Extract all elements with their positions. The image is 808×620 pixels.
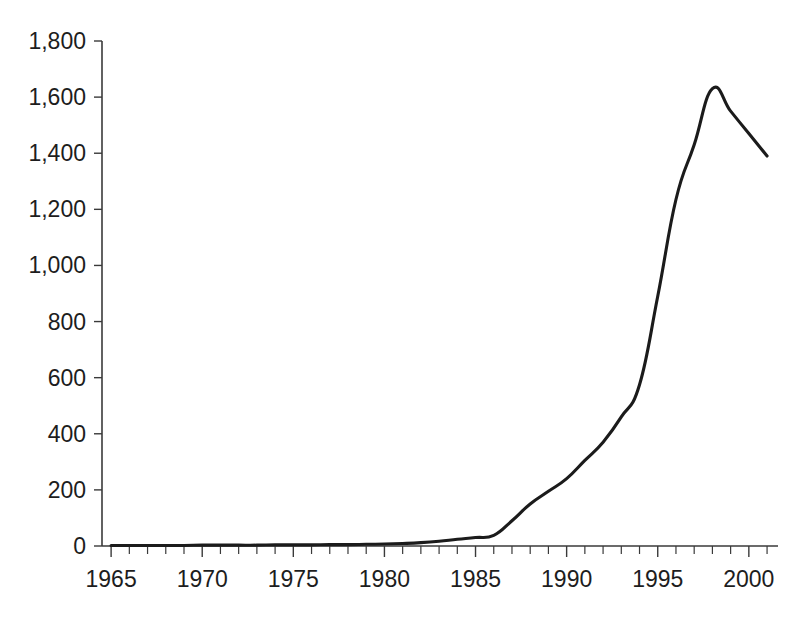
x-tick-label: 1965	[86, 566, 137, 592]
x-tick-label: 1980	[359, 566, 410, 592]
line-chart: 1,8001,6001,4001,2001,0008006004002000 1…	[0, 0, 808, 620]
y-axis-tick-marks	[94, 41, 102, 546]
chart-container: 1,8001,6001,4001,2001,0008006004002000 1…	[0, 0, 808, 620]
y-tick-label: 1,600	[28, 84, 86, 110]
y-tick-label: 600	[48, 365, 86, 391]
x-tick-label: 1970	[177, 566, 228, 592]
y-axis-tick-labels: 1,8001,6001,4001,2001,0008006004002000	[28, 28, 86, 559]
y-tick-label: 400	[48, 421, 86, 447]
y-tick-label: 200	[48, 477, 86, 503]
x-axis-tick-labels: 19651970197519801985199019952000	[86, 566, 775, 592]
x-tick-label: 1990	[541, 566, 592, 592]
x-tick-label: 2000	[723, 566, 774, 592]
y-tick-label: 0	[73, 533, 86, 559]
y-tick-label: 1,200	[28, 196, 86, 222]
x-tick-label: 1995	[632, 566, 683, 592]
y-tick-label: 1,800	[28, 28, 86, 54]
x-axis-tick-marks	[111, 546, 767, 557]
x-tick-label: 1985	[450, 566, 501, 592]
y-tick-label: 1,000	[28, 252, 86, 278]
y-tick-label: 1,400	[28, 140, 86, 166]
x-tick-label: 1975	[268, 566, 319, 592]
y-tick-label: 800	[48, 309, 86, 335]
data-series-line	[111, 87, 767, 545]
